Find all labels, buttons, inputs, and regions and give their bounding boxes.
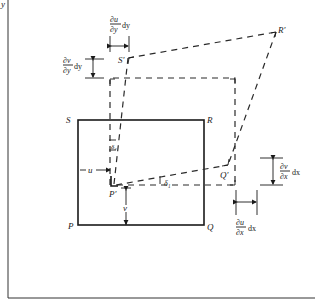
label-s-prime: S′ [118,55,126,65]
dv-dx-numerator: ∂v [280,162,288,171]
du-dy-suffix: dy [122,21,130,30]
translated-corner-mark-br [230,180,235,185]
label-p-prime: P′ [108,189,117,199]
label-q-prime: Q′ [220,170,229,180]
translated-corner-mark [110,79,115,84]
dv-dy-denominator: ∂y [63,66,71,75]
label-delta2: δ₂ [111,143,117,151]
strain-deformation-diagram: y S R P Q P′ Q′ R′ S′ u v δ₂ δ₁ ∂u ∂y dy [0,0,315,302]
label-u: u [88,165,93,175]
dv-dy-suffix: dy [74,62,82,71]
label-s: S [66,115,71,125]
label-p: P [67,221,74,231]
dv-dy-numerator: ∂v [63,56,71,65]
du-dx-denominator: ∂x [236,228,244,237]
du-dy-numerator: ∂u [110,15,118,24]
label-r-prime: R′ [277,25,286,35]
label-delta1: δ₁ [164,179,171,188]
du-dx-numerator: ∂u [236,218,244,227]
translated-corner-mark-tr [230,79,235,84]
deformed-edge-pq [116,165,228,185]
dv-dx-denominator: ∂x [280,172,288,181]
du-dx-suffix: dx [248,224,256,233]
label-r: R [206,115,213,125]
dv-dx-suffix: dx [292,168,300,177]
s-prime-corner-mark [128,57,134,64]
du-dy-denominator: ∂y [110,25,118,34]
deformed-edge-sr [128,32,276,58]
y-axis-label: y [0,0,5,9]
label-v: v [123,203,127,213]
label-q: Q [207,222,214,232]
translated-element [110,78,235,185]
deformed-edge-ps [114,58,128,184]
